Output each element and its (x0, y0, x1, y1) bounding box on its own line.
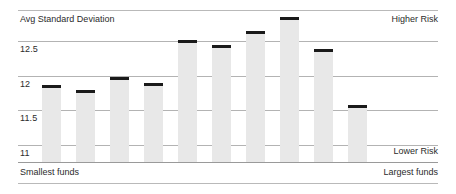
bar-value-marker (246, 31, 265, 34)
bar-value-marker (110, 77, 129, 80)
bar-value-marker (42, 85, 61, 88)
bar (348, 108, 367, 162)
y-axis-tick-label: 12.5 (20, 44, 38, 54)
bar (314, 52, 333, 162)
smallest-funds-label: Smallest funds (20, 167, 79, 177)
x-axis-line (18, 162, 438, 163)
bar (42, 88, 61, 162)
y-axis-tick-label: 11.5 (20, 113, 37, 123)
bar (76, 93, 95, 162)
bar-value-marker (76, 90, 95, 93)
bar (144, 86, 163, 162)
bar-value-marker (348, 105, 367, 108)
y-axis-tick-label: 12 (20, 79, 30, 89)
bar-value-marker (178, 40, 197, 43)
bar-value-marker (314, 49, 333, 52)
bar-value-marker (212, 45, 231, 48)
bar (178, 43, 197, 162)
plot-area: 12.51211.511 (18, 10, 438, 162)
bar (280, 20, 299, 162)
avg-standard-deviation-chart: Avg Standard Deviation Higher Risk Lower… (0, 0, 456, 194)
bar (110, 80, 129, 162)
bar-value-marker (280, 17, 299, 20)
y-axis-tick-label: 11 (20, 148, 30, 158)
bar-value-marker (144, 83, 163, 86)
bottom-divider (18, 183, 438, 184)
bar (212, 48, 231, 162)
bar (246, 34, 265, 162)
gridline (18, 41, 438, 42)
largest-funds-label: Largest funds (383, 167, 438, 177)
